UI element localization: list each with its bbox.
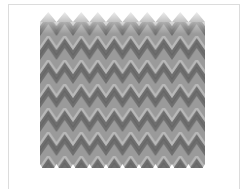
zigzag-pattern-image	[40, 12, 205, 178]
image-caption	[14, 183, 234, 189]
